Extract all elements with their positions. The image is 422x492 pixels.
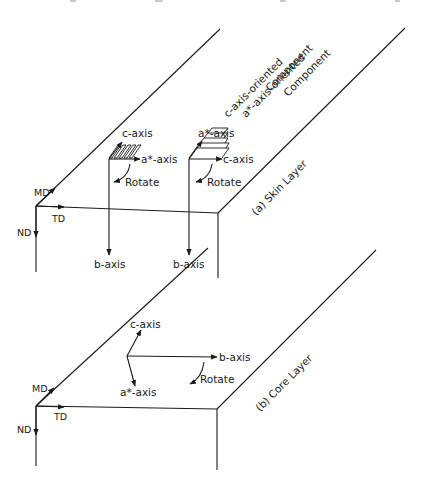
a-star-axis-arrow	[127, 356, 135, 386]
td-label: TD	[53, 411, 67, 422]
rotate-label: Rotate	[207, 176, 241, 188]
b-axis-label: b-axis	[219, 351, 251, 363]
b-axis-arrow	[127, 356, 217, 357]
a-star-axis-label: a*-axis	[141, 153, 178, 165]
slab-left-edge-diagonal	[36, 248, 208, 406]
crystal-orientation-diagram: MD TD ND c-axis-oriented Component c-axi…	[0, 0, 422, 492]
c-axis-label: c-axis	[122, 127, 153, 139]
b-axis-label: b-axis	[173, 258, 205, 270]
a-star-axis-label: a*-axis	[120, 386, 157, 398]
lamellae-icon	[109, 145, 141, 158]
panel-label-core-layer: (b) Core Layer	[253, 351, 315, 413]
skin-layer-panel: MD TD ND c-axis-oriented Component c-axi…	[17, 28, 405, 278]
cropped-header-remnant	[70, 0, 400, 2]
c-axis-label: c-axis	[223, 153, 254, 165]
b-axis-label: b-axis	[94, 258, 126, 270]
a-star-axis-label: a*-axis	[198, 127, 235, 139]
rotate-label: Rotate	[125, 176, 159, 188]
td-label: TD	[51, 213, 65, 224]
panel-label-skin-layer: (a) Skin Layer	[249, 157, 310, 218]
slab-right-edge-diagonal	[217, 250, 376, 409]
core-layer-panel: MD TD ND c-axis b-axis a*-axis Rotate (b…	[17, 248, 376, 470]
td-arrow	[36, 206, 64, 207]
md-label: MD	[34, 187, 50, 198]
c-axis-arrow	[127, 330, 141, 356]
slab-right-edge-diagonal	[218, 28, 405, 213]
md-label: MD	[32, 383, 48, 394]
a-star-axis-arrow	[189, 141, 202, 159]
c-axis-label: c-axis	[130, 318, 161, 330]
nd-label: ND	[17, 227, 31, 238]
nd-label: ND	[17, 424, 31, 435]
rotate-label: Rotate	[200, 373, 234, 385]
